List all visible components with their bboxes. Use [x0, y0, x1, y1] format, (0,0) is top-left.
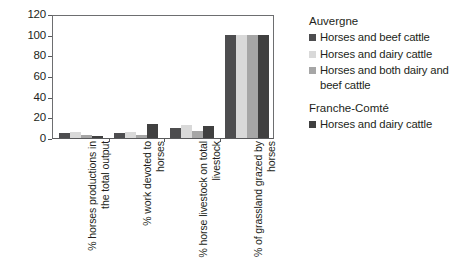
x-axis: % horses productions in the total output… [52, 141, 274, 261]
y-tick-label: 40 [34, 92, 46, 104]
bar[interactable] [81, 135, 92, 138]
y-tick-label: 80 [34, 51, 46, 63]
legend-entry-label: Horses and both dairy and beef cattle [320, 63, 465, 92]
bar[interactable] [70, 132, 81, 138]
bar[interactable] [170, 128, 181, 138]
legend-entry-label: Horses and dairy cattle [320, 47, 432, 62]
legend: AuvergneHorses and beef cattleHorses and… [309, 14, 465, 134]
legend-swatch-icon [309, 121, 316, 128]
y-tick-label: 120 [27, 9, 46, 21]
bar[interactable] [136, 135, 147, 138]
bar[interactable] [247, 35, 258, 138]
bar-group [59, 16, 103, 138]
legend-entry[interactable]: Horses and beef cattle [309, 30, 465, 45]
x-axis-label: % work devoted to horses [141, 141, 166, 259]
legend-entry[interactable]: Horses and dairy cattle [309, 117, 465, 132]
bar[interactable] [192, 131, 203, 138]
legend-entry[interactable]: Horses and dairy cattle [309, 47, 465, 62]
bar-chart-figure: 020406080100120 % horses productions in … [0, 0, 467, 266]
x-axis-label: % horses productions in the total output [86, 141, 111, 259]
legend-swatch-icon [309, 67, 316, 74]
bar[interactable] [225, 35, 236, 138]
bar[interactable] [203, 126, 214, 138]
y-tick-mark [48, 139, 52, 140]
bar[interactable] [181, 125, 192, 138]
legend-swatch-icon [309, 51, 316, 58]
x-axis-label: % of grassland grazed by horses [252, 141, 277, 259]
legend-group-title: Franche-Comté [309, 101, 465, 116]
bar[interactable] [147, 124, 158, 138]
legend-swatch-icon [309, 34, 316, 41]
legend-entry-label: Horses and dairy cattle [320, 117, 432, 132]
bar-group [225, 16, 269, 138]
bar[interactable] [114, 133, 125, 138]
y-tick-label: 100 [27, 30, 46, 42]
y-tick-label: 20 [34, 113, 46, 125]
bar[interactable] [236, 35, 247, 138]
bar-group [114, 16, 158, 138]
bar[interactable] [59, 133, 70, 138]
plot-frame [52, 15, 274, 139]
bar[interactable] [125, 132, 136, 138]
x-axis-label: % horse livestock on total livestock [197, 141, 222, 259]
y-axis: 020406080100120 [18, 15, 46, 139]
y-tick-label: 60 [34, 71, 46, 83]
legend-entry-label: Horses and beef cattle [320, 30, 430, 45]
bar-group [170, 16, 214, 138]
bars-layer [53, 16, 273, 138]
bar[interactable] [258, 35, 269, 138]
legend-entry[interactable]: Horses and both dairy and beef cattle [309, 63, 465, 92]
legend-group-title: Auvergne [309, 14, 465, 29]
bar[interactable] [92, 136, 103, 138]
y-tick-label: 0 [40, 133, 46, 145]
plot-area: 020406080100120 % horses productions in … [18, 8, 303, 258]
